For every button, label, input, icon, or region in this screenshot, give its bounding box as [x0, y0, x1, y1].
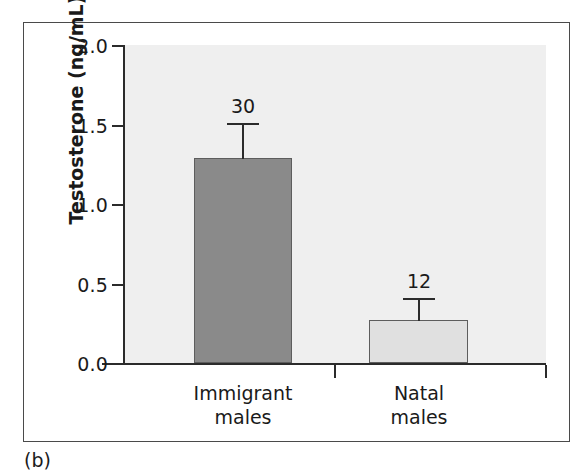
y-axis-title: Testosterone (ng/mL): [65, 0, 87, 240]
error-bar-stem-natal-males: [418, 298, 420, 321]
x-axis-line: [102, 363, 546, 365]
y-axis-tick-label-0.5: 0.5: [48, 274, 108, 296]
y-axis-line: [123, 45, 125, 364]
error-bar-stem-immigrant-males: [242, 123, 244, 159]
y-axis-tick-label-0.0: 0.0: [48, 353, 108, 375]
plot-area: [123, 45, 546, 363]
x-axis-divider-tick-right: [545, 365, 547, 378]
y-axis-tick-0.5: [112, 284, 123, 286]
bar-sample-size-label-immigrant-males: 30: [198, 95, 288, 117]
y-axis-tick-1.0: [112, 204, 123, 206]
y-axis-tick-2.0: [112, 45, 123, 47]
y-axis-tick-1.5: [112, 125, 123, 127]
x-axis-label-immigrant-males-line2: males: [143, 405, 343, 429]
figure-frame: 2.0 1.5 1.0 0.5 0.0 Testosterone (ng/mL)…: [23, 22, 570, 442]
x-axis-label-natal-males-line1: Natal: [319, 381, 519, 405]
bar-sample-size-label-natal-males: 12: [374, 270, 464, 292]
x-axis-label-natal-males-line2: males: [319, 405, 519, 429]
error-bar-cap-immigrant-males: [227, 123, 259, 125]
bar-natal-males: [369, 320, 468, 363]
x-axis-label-natal-males: Natal males: [319, 381, 519, 430]
bar-immigrant-males: [194, 158, 292, 363]
x-axis-label-immigrant-males-line1: Immigrant: [143, 381, 343, 405]
x-axis-label-immigrant-males: Immigrant males: [143, 381, 343, 430]
panel-caption: (b): [24, 449, 51, 471]
error-bar-cap-natal-males: [403, 298, 435, 300]
y-axis-tick-0.0: [112, 363, 123, 365]
x-axis-divider-tick-center: [334, 365, 336, 378]
